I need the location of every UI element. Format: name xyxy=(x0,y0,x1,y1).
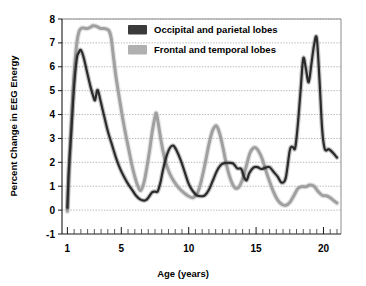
x-tick-label-5: 5 xyxy=(119,243,125,254)
x-tick-label-10: 10 xyxy=(183,243,195,254)
legend-swatch-frontal-temporal xyxy=(128,45,147,55)
y-tick-label-5: 5 xyxy=(49,85,55,96)
y-tick-label-8: 8 xyxy=(49,14,55,25)
y-tick-label-0: 0 xyxy=(49,205,55,216)
y-tick-label-1: 1 xyxy=(49,181,55,192)
y-tick-label-4: 4 xyxy=(49,109,55,120)
y-tick-label-7: 7 xyxy=(49,37,55,48)
chart-canvas: -101234567815101520Age (years)Percent Ch… xyxy=(0,0,366,286)
x-tick-label-1: 1 xyxy=(65,243,71,254)
legend-label-frontal-temporal: Frontal and temporal lobes xyxy=(154,44,276,55)
x-tick-label-20: 20 xyxy=(318,243,330,254)
legend-swatch-occipital-parietal xyxy=(128,25,147,35)
legend-label-occipital-parietal: Occipital and parietal lobes xyxy=(154,24,278,35)
y-tick-label--1: -1 xyxy=(46,229,55,240)
y-tick-label-6: 6 xyxy=(49,61,55,72)
y-tick-label-2: 2 xyxy=(49,157,55,168)
eeg-energy-chart-figure: -101234567815101520Age (years)Percent Ch… xyxy=(0,0,366,286)
x-axis-title: Age (years) xyxy=(157,268,209,279)
y-axis-title: Percent Change in EEG Energy xyxy=(8,55,19,197)
x-tick-label-15: 15 xyxy=(251,243,263,254)
y-tick-label-3: 3 xyxy=(49,133,55,144)
